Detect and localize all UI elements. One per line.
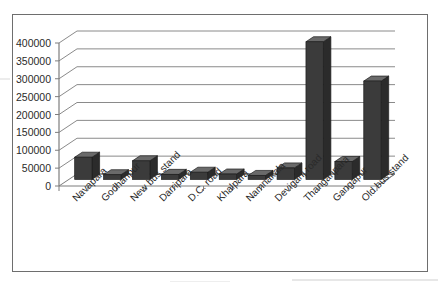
gridline — [59, 120, 395, 132]
y-tick-label: 200000 — [16, 109, 51, 121]
y-tick-label: 100000 — [16, 144, 51, 156]
gridline — [59, 138, 395, 150]
y-tick-label: 250000 — [16, 91, 51, 103]
chart-figure: 0500001000001500002000002500003000003500… — [0, 0, 442, 284]
y-axis-tick-labels: 0500001000001500002000002500003000003500… — [16, 37, 51, 192]
bar-chart-plot: 0500001000001500002000002500003000003500… — [0, 0, 442, 284]
y-tick-label: 50000 — [22, 162, 51, 174]
gridline — [59, 31, 395, 43]
y-tick-label: 300000 — [16, 73, 51, 85]
gridline — [59, 67, 395, 79]
bar — [364, 76, 389, 179]
gridline — [59, 103, 395, 115]
y-tick-label: 0 — [45, 180, 51, 192]
y-tick-label: 400000 — [16, 37, 51, 49]
gridlines — [59, 31, 395, 168]
y-axis — [55, 43, 59, 186]
y-tick-label: 350000 — [16, 55, 51, 67]
y-tick-label: 150000 — [16, 126, 51, 138]
gridline — [59, 85, 395, 97]
gridline — [59, 49, 395, 61]
